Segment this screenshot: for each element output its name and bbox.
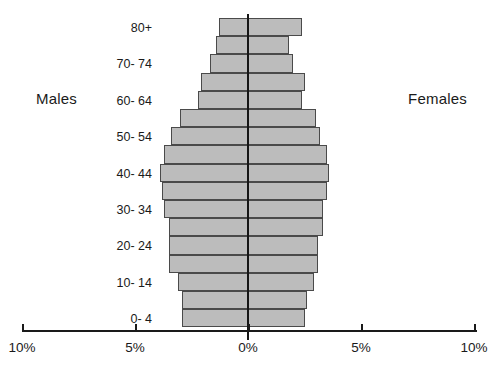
male-bar (169, 255, 248, 273)
female-bar (248, 182, 327, 200)
female-bar (248, 291, 307, 309)
pyramid-row (0, 309, 500, 327)
population-pyramid-chart: Males Females 0- 410- 1420- 2430- 3440- … (0, 0, 500, 372)
female-bar (248, 273, 314, 291)
x-axis-tick-label: 0% (238, 340, 258, 355)
age-group-label: 50- 54 (117, 131, 152, 144)
male-bar (178, 273, 248, 291)
age-group-label: 80+ (131, 22, 152, 35)
male-bar (182, 291, 248, 309)
female-bar (248, 36, 289, 54)
male-bar (160, 164, 248, 182)
female-bar (248, 127, 320, 145)
pyramid-row (0, 236, 500, 254)
pyramid-row (0, 18, 500, 36)
male-bar (171, 127, 248, 145)
female-bar (248, 145, 327, 163)
male-bar (164, 200, 248, 218)
male-bar (210, 54, 248, 72)
female-bar (248, 255, 318, 273)
pyramid-row (0, 164, 500, 182)
age-group-label: 70- 74 (117, 58, 152, 71)
pyramid-row (0, 36, 500, 54)
male-bar (216, 36, 248, 54)
female-bar (248, 54, 293, 72)
x-axis-tick-label: 5% (351, 340, 371, 355)
pyramid-row (0, 255, 500, 273)
male-bar (169, 236, 248, 254)
female-bar (248, 200, 323, 218)
male-bar (201, 73, 248, 91)
x-axis-tick (361, 324, 363, 332)
male-bar (198, 91, 248, 109)
pyramid-row (0, 200, 500, 218)
pyramid-row (0, 182, 500, 200)
age-group-label: 0- 4 (130, 313, 152, 326)
x-axis-tick (474, 324, 476, 331)
plot-area: 0- 410- 1420- 2430- 3440- 4450- 5460- 64… (0, 0, 500, 340)
x-axis-tick (135, 324, 137, 332)
female-bar (248, 18, 302, 36)
age-group-label: 40- 44 (117, 168, 152, 181)
x-axis-tick-label: 10% (8, 340, 35, 355)
pyramid-row (0, 273, 500, 291)
male-bar (164, 145, 248, 163)
pyramid-row (0, 218, 500, 236)
pyramid-row (0, 145, 500, 163)
male-bar (180, 109, 248, 127)
age-group-label: 60- 64 (117, 95, 152, 108)
female-bar (248, 236, 318, 254)
female-bar (248, 218, 323, 236)
pyramid-row (0, 127, 500, 145)
x-axis-tick (248, 324, 250, 332)
male-bar (169, 218, 248, 236)
x-axis-tick-label: 5% (125, 340, 145, 355)
female-bar (248, 91, 302, 109)
age-group-label: 30- 34 (117, 204, 152, 217)
age-group-label: 10- 14 (117, 277, 152, 290)
age-group-label: 20- 24 (117, 240, 152, 253)
male-bar (162, 182, 248, 200)
pyramid-row (0, 54, 500, 72)
pyramid-row (0, 73, 500, 91)
female-bar (248, 73, 305, 91)
pyramid-row (0, 109, 500, 127)
zero-axis-line (247, 14, 249, 340)
pyramid-row (0, 91, 500, 109)
x-axis-tick-label: 10% (460, 340, 487, 355)
female-bar (248, 164, 329, 182)
male-bar (182, 309, 248, 327)
male-bar (219, 18, 248, 36)
pyramid-row (0, 291, 500, 309)
x-axis-tick (22, 324, 24, 331)
female-bar (248, 109, 316, 127)
female-bar (248, 309, 305, 327)
